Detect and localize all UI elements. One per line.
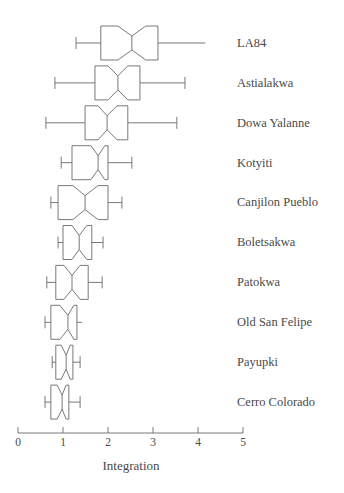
category-label-1: LA84 <box>237 36 267 50</box>
boxplot-1 <box>76 26 205 60</box>
boxplot-6 <box>58 226 103 260</box>
boxplot-3 <box>46 106 177 140</box>
plot-canvas: LA84AstialakwaDowa YalanneKotyitiCanjilo… <box>0 0 344 493</box>
x-tick-label-0: 0 <box>15 436 21 448</box>
boxplot-8 <box>45 305 82 339</box>
box-outline <box>101 26 158 60</box>
x-tick-label-4: 4 <box>195 436 201 448</box>
box-outline <box>51 385 69 419</box>
x-tick-label-2: 2 <box>105 436 111 448</box>
boxplot-4 <box>61 146 132 180</box>
x-axis-title: Integration <box>102 458 160 473</box>
box-outline <box>58 186 108 220</box>
boxplot-10 <box>45 385 80 419</box>
boxplot-5 <box>51 186 122 220</box>
category-label-9: Payupki <box>237 355 279 369</box>
category-label-7: Patokwa <box>237 275 281 289</box>
boxplot-7 <box>47 265 102 299</box>
x-axis-layer: 012345 <box>15 427 246 448</box>
category-label-5: Canjilon Pueblo <box>237 195 318 209</box>
x-tick-label-3: 3 <box>150 436 156 448</box>
boxplot-chart: LA84AstialakwaDowa YalanneKotyitiCanjilo… <box>0 0 344 493</box>
box-outline <box>63 226 92 260</box>
category-label-3: Dowa Yalanne <box>237 116 310 130</box>
category-label-10: Cerro Colorado <box>237 395 315 409</box>
boxplot-series-layer <box>45 26 205 419</box>
category-label-6: Boletsakwa <box>237 235 296 249</box>
category-label-4: Kotyiti <box>237 156 273 170</box>
category-label-2: Astialakwa <box>237 76 294 90</box>
boxplot-9 <box>52 345 80 379</box>
box-outline <box>85 106 128 140</box>
boxplot-2 <box>55 66 185 100</box>
box-outline <box>95 66 140 100</box>
category-labels-layer: LA84AstialakwaDowa YalanneKotyitiCanjilo… <box>237 36 318 409</box>
category-label-8: Old San Felipe <box>237 315 312 329</box>
x-tick-label-1: 1 <box>60 436 66 448</box>
box-outline <box>51 305 77 339</box>
box-outline <box>56 345 73 379</box>
box-outline <box>72 146 108 180</box>
x-tick-label-5: 5 <box>240 436 246 448</box>
